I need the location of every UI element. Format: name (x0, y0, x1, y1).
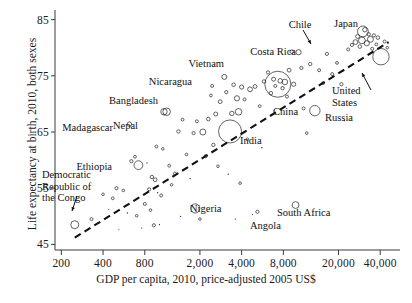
x-tick-label-4000: 4,000 (228, 257, 255, 269)
x-tick-label-8000: 8,000 (270, 257, 297, 269)
annotation-democratic-republic-of-the-congo: DemocraticRepublic ofthe Congo (42, 169, 104, 204)
x-axis-title: GDP per capita, 2010, price-adjusted 200… (0, 273, 412, 285)
annotation-south-africa: South Africa (277, 208, 330, 219)
annotation-russia: Russia (325, 113, 353, 124)
annotation-chile: Chile (289, 20, 312, 31)
annotation-japan: Japan (334, 19, 358, 30)
trend-line (75, 42, 389, 238)
annotation-line: the Congo (42, 192, 85, 203)
annotation-madagascar: Madagascar (62, 123, 113, 134)
annotation-nepal: Nepal (113, 121, 138, 132)
annotation-costa-rica: Costa Rica (250, 47, 296, 58)
x-tick-label-400: 400 (94, 257, 112, 269)
annotation-bangladesh: Bangladesh (109, 96, 158, 107)
x-tick-label-2000: 2,000 (186, 257, 213, 269)
x-tick-label-20000: 20,000 (322, 257, 355, 269)
x-tick-label-200: 200 (52, 257, 70, 269)
annotation-vietnam: Vietnam (188, 59, 224, 70)
scatter-chart: 2004008002,0004,0008,00020,00040,000 455… (0, 0, 412, 303)
annotation-line: States (332, 96, 357, 107)
annotation-nicaragua: Nicaragua (149, 77, 192, 88)
annotation-line: Democratic (42, 169, 91, 180)
annotation-line: Republic of (42, 180, 91, 191)
annotation-united-states: UnitedStates (332, 85, 394, 108)
x-tick-label-40000: 40,000 (364, 257, 397, 269)
y-axis-title: Life expectancy at birth, 2010, both sex… (26, 14, 38, 254)
annotation-line: United (332, 85, 361, 96)
annotation-angola: Angola (250, 221, 281, 232)
annotation-india: India (240, 136, 262, 147)
x-tick-label-800: 800 (136, 257, 154, 269)
annotation-nigeria: Nigeria (190, 204, 222, 215)
annotation-china: China (273, 107, 298, 118)
